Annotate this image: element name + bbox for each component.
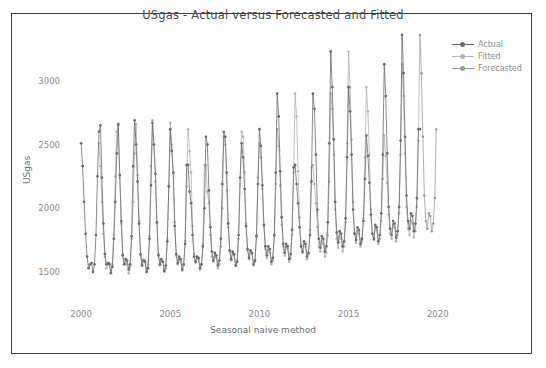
legend-swatch-fitted [452, 52, 474, 60]
legend-swatch-forecasted [452, 64, 474, 72]
legend-label-fitted: Fitted [478, 52, 501, 61]
legend-swatch-actual [452, 40, 474, 48]
series-forecasted [419, 34, 438, 233]
y-tick-label: 1500 [38, 267, 60, 277]
y-tick-label: 3000 [38, 76, 60, 86]
y-tick-label: 2500 [38, 140, 60, 150]
x-tick-label: 2000 [70, 309, 92, 319]
x-tick-label: 2010 [249, 309, 271, 319]
x-tick-label: 2020 [427, 309, 449, 319]
chart-legend: Actual Fitted Forecasted [452, 38, 538, 74]
legend-label-actual: Actual [478, 40, 503, 49]
legend-label-forecasted: Forecasted [478, 64, 522, 73]
y-tick-label: 2000 [38, 203, 60, 213]
x-axis-title: Seasonal naive method [210, 325, 316, 335]
y-axis-title: USgas [22, 156, 32, 185]
x-tick-label: 2005 [159, 309, 181, 319]
legend-item-actual[interactable]: Actual [452, 38, 538, 50]
x-tick-label: 2015 [338, 309, 360, 319]
legend-item-forecasted[interactable]: Forecasted [452, 62, 538, 74]
legend-item-fitted[interactable]: Fitted [452, 50, 538, 62]
